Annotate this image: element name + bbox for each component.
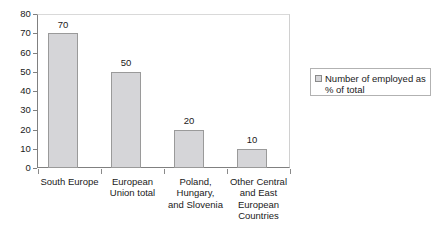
y-axis-tick-mark xyxy=(33,14,37,15)
y-axis-tick-label: 60 xyxy=(0,48,31,58)
category-label-line: Union total xyxy=(101,187,164,198)
category-label-line: European xyxy=(101,176,164,187)
y-axis-tick-mark xyxy=(33,149,37,150)
y-axis-tick-mark xyxy=(33,168,37,169)
bars-layer: 70502010 xyxy=(38,14,290,168)
y-axis-tick-mark xyxy=(33,130,37,131)
bar-group: 20 xyxy=(164,14,227,168)
x-axis-tick-mark xyxy=(101,169,102,174)
legend: Number of employed as % of total xyxy=(310,68,431,96)
bar-group: 50 xyxy=(101,14,164,168)
legend-label-line: Number of employed xyxy=(325,73,413,84)
bar-value-label: 10 xyxy=(237,135,267,145)
bar-value-label: 70 xyxy=(48,20,78,30)
legend-entry-label: Number of employed as % of total xyxy=(325,73,426,96)
category-label-line: Other Central xyxy=(227,176,290,187)
legend-swatch-icon xyxy=(315,75,322,82)
category-label-line: Hungary, xyxy=(164,187,227,198)
bar xyxy=(48,33,78,168)
x-axis-tick-mark xyxy=(227,169,228,174)
x-axis-category-label: EuropeanUnion total xyxy=(101,176,164,199)
y-axis-tick-label: 80 xyxy=(0,9,31,19)
category-label-line: and Slovenia xyxy=(164,199,227,210)
y-axis-tick-mark xyxy=(33,72,37,73)
category-label-line: Countries xyxy=(227,210,290,221)
y-axis-tick-label: 50 xyxy=(0,67,31,77)
y-axis-tick-label: 0 xyxy=(0,163,31,173)
x-axis-tick-mark xyxy=(290,169,291,174)
bar xyxy=(237,149,267,168)
bar xyxy=(174,130,204,169)
y-axis: 01020304050607080 xyxy=(0,14,31,168)
y-axis-tick-mark xyxy=(33,53,37,54)
category-label-line: Poland, xyxy=(164,176,227,187)
x-axis-tick-mark xyxy=(38,169,39,174)
x-axis-category-label: Poland,Hungary,and Slovenia xyxy=(164,176,227,210)
y-axis-tick-label: 10 xyxy=(0,144,31,154)
legend-entry: Number of employed as % of total xyxy=(315,73,426,96)
y-axis-tick-label: 40 xyxy=(0,86,31,96)
y-axis-tick-label: 30 xyxy=(0,106,31,116)
bar-group: 70 xyxy=(38,14,101,168)
y-axis-tick-label: 20 xyxy=(0,125,31,135)
y-axis-tick-mark xyxy=(33,33,37,34)
bar-chart: 01020304050607080 70502010 South EuropeE… xyxy=(0,0,441,236)
bar-value-label: 20 xyxy=(174,116,204,126)
x-axis-category-label: South Europe xyxy=(38,176,101,187)
x-axis-category-label: Other Centraland EastEuropeanCountries xyxy=(227,176,290,222)
bar xyxy=(111,72,141,168)
y-axis-tick-mark xyxy=(33,91,37,92)
y-axis-tick-mark xyxy=(33,110,37,111)
category-label-line: European xyxy=(227,199,290,210)
bar-group: 10 xyxy=(227,14,290,168)
y-axis-tick-label: 70 xyxy=(0,29,31,39)
category-label-line: and East xyxy=(227,187,290,198)
category-label-line: South Europe xyxy=(38,176,101,187)
x-axis-tick-mark xyxy=(164,169,165,174)
bar-value-label: 50 xyxy=(111,58,141,68)
